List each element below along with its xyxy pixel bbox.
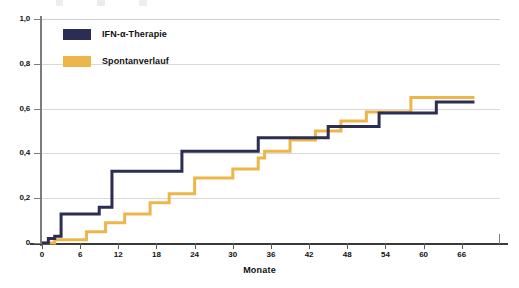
curve-spontanverlauf: [42, 97, 474, 243]
step-curves: [0, 0, 519, 288]
chart-container: 1,0 0,8 0,6 0,4 0,2 0 061218243036424854…: [0, 0, 519, 288]
